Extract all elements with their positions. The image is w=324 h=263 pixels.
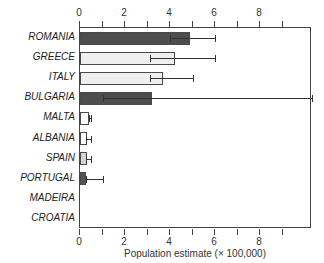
category-label-text: BULGARIA	[1, 91, 75, 103]
category-label-madeira: MADEIRA	[0, 192, 75, 204]
axis-tick	[124, 229, 125, 235]
error-bar	[170, 38, 215, 39]
axis-tick	[282, 229, 283, 235]
error-bar-cap	[91, 115, 92, 122]
error-bar-cap	[150, 55, 151, 62]
category-label-romania: ROMANIA	[0, 31, 75, 43]
axis-tick	[147, 229, 148, 235]
axis-tick-label: 2	[114, 236, 134, 247]
category-label-portugal: PORTUGAL	[0, 172, 75, 184]
category-label-bulgaria: BULGARIA	[0, 91, 75, 103]
error-bar-cap	[150, 75, 151, 82]
axis-tick-label: 0	[69, 236, 89, 247]
axis-tick	[79, 229, 80, 235]
population-estimate-bar-chart: 02468 02468 ROMANIAGREECEITALYBULGARIAMA…	[0, 0, 324, 263]
axis-tick-label: 0	[69, 7, 89, 18]
error-bar-cap	[215, 55, 216, 62]
error-bar-cap	[89, 115, 90, 122]
axis-tick-label: 6	[204, 236, 224, 247]
axis-tick-label: 8	[249, 236, 269, 247]
category-label-text: CROATIA	[1, 212, 75, 224]
error-bar-cap	[193, 75, 194, 82]
error-bar	[150, 78, 193, 79]
category-label-text: SPAIN	[1, 152, 75, 164]
category-label-text: MADEIRA	[1, 192, 75, 204]
error-bar-cap	[86, 156, 87, 163]
bar	[80, 112, 89, 125]
axis-tick-label: 6	[204, 7, 224, 18]
error-bar	[150, 58, 215, 59]
error-bar-cap	[91, 136, 92, 143]
error-bar	[86, 179, 103, 180]
category-label-spain: SPAIN	[0, 152, 75, 164]
category-label-croatia: CROATIA	[0, 212, 75, 224]
error-bar-cap	[86, 176, 87, 183]
category-label-text: PORTUGAL	[1, 172, 75, 184]
category-label-text: GREECE	[1, 51, 75, 63]
axis-tick-label: 4	[159, 236, 179, 247]
x-axis-label: Population estimate (× 100,000)	[79, 248, 311, 259]
error-bar-cap	[86, 136, 87, 143]
category-label-text: ROMANIA	[1, 31, 75, 43]
axis-tick	[169, 229, 170, 235]
category-label-malta: MALTA	[0, 111, 75, 123]
error-bar-cap	[103, 95, 104, 102]
category-label-italy: ITALY	[0, 71, 75, 83]
error-bar-cap	[215, 35, 216, 42]
plot-area	[79, 27, 311, 228]
error-bar-cap	[91, 156, 92, 163]
axis-tick	[192, 229, 193, 235]
axis-tick	[214, 229, 215, 235]
axis-tick-label: 8	[249, 7, 269, 18]
axis-tick-label: 4	[159, 7, 179, 18]
axis-tick	[237, 229, 238, 235]
axis-tick	[102, 229, 103, 235]
error-bar-cap	[103, 176, 104, 183]
category-label-greece: GREECE	[0, 51, 75, 63]
error-bar-cap	[170, 35, 171, 42]
axis-tick-label: 2	[114, 7, 134, 18]
error-bar	[103, 98, 312, 99]
category-label-albania: ALBANIA	[0, 132, 75, 144]
category-label-text: ALBANIA	[1, 132, 75, 144]
axis-tick	[259, 229, 260, 235]
error-bar-cap	[312, 95, 313, 102]
category-label-text: MALTA	[1, 111, 75, 123]
category-label-text: ITALY	[1, 71, 75, 83]
